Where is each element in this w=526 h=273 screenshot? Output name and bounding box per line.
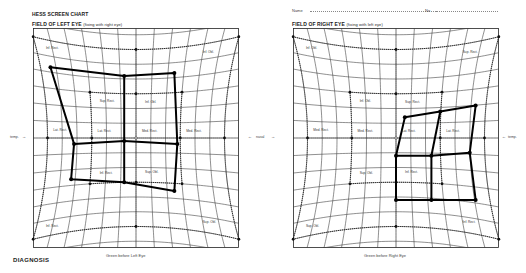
left-field-title-text: FIELD OF LEFT EYE <box>32 21 82 27</box>
right-field-subtitle: (fixing with left eye) <box>346 22 382 27</box>
left-chart-footer: Green before Left Eye <box>106 254 145 258</box>
number-field[interactable] <box>436 8 498 12</box>
muscle-label-inner-bot-right: Sup. Obl. <box>145 170 158 174</box>
right-chart-temporal-arrow: ← <box>502 135 506 139</box>
muscle-label-inner-mid-left: Lat. Rect. <box>98 129 112 133</box>
muscle-label-inner-top-left: Sup. Rect. <box>100 99 115 103</box>
muscle-label-inner-bot-left: Inf. Rect. <box>100 171 113 175</box>
muscle-label-inner-mid-left: Med. Rect. <box>358 129 374 133</box>
diagnosis-heading: DIAGNOSIS <box>13 257 49 263</box>
muscle-label-outer-bot-left: Sup. Obl. <box>306 224 319 228</box>
left-field-title: FIELD OF LEFT EYE (fixing with right eye… <box>32 22 122 27</box>
muscle-label-outer-top-right: Inf. Obl. <box>203 50 214 54</box>
left-chart-temporal-arrow: → <box>22 135 26 139</box>
name-field-label: Name <box>292 9 303 13</box>
name-field[interactable] <box>310 8 438 12</box>
muscle-label-outer-mid-right: Med. Rect. <box>186 129 202 133</box>
muscle-label-inner-top-left: Inf. Obl. <box>360 99 371 103</box>
muscle-label-outer-mid-left: Lat. Rect. <box>53 128 67 132</box>
muscle-label-outer-mid-right: Lat. Rect. <box>446 129 460 133</box>
left-eye-chart: Inf. Rect.Inf. Obl.Sup. Rect.Inf. Obl.La… <box>33 28 239 248</box>
right-chart-footer: Green before Right Eye <box>364 254 406 258</box>
muscle-label-outer-top-right: Sup. Rect. <box>463 50 478 54</box>
number-field-label: No <box>425 9 430 13</box>
right-eye-chart: Inf. Obl.Sup. Rect.Inf. Obl.Sup. Rect.Me… <box>293 28 499 248</box>
muscle-label-inner-bot-left: Sup. Obl. <box>360 171 373 175</box>
right-chart-temporal-label: temp. <box>508 136 517 140</box>
right-chart-nasal-arrow: → <box>271 135 275 139</box>
left-field-subtitle: (fixing with right eye) <box>83 22 122 27</box>
muscle-label-outer-bot-right: Inf. Rect. <box>463 220 476 224</box>
right-field-title: FIELD OF RIGHT EYE (fixing with left eye… <box>292 22 383 27</box>
muscle-label-inner-top-right: Inf. Obl. <box>145 100 156 104</box>
muscle-label-outer-top-left: Inf. Obl. <box>306 46 317 50</box>
muscle-label-outer-bot-right: Sup. Obl. <box>203 220 216 224</box>
muscle-label-outer-bot-left: Inf. Rect. <box>46 224 59 228</box>
left-chart-temporal-label: temp. <box>10 136 19 140</box>
muscle-label-inner-mid-right: Med. Rect. <box>142 129 158 133</box>
muscle-label-outer-top-left: Inf. Rect. <box>46 46 59 50</box>
muscle-label-inner-mid-right: Lat. Rect. <box>402 129 416 133</box>
muscle-label-outer-mid-left: Med. Rect. <box>313 128 329 132</box>
center-nasal-label: nasal <box>256 136 264 140</box>
right-field-title-text: FIELD OF RIGHT EYE <box>292 21 345 27</box>
muscle-label-inner-bot-right: Inf. Rect. <box>405 170 418 174</box>
chart-title: HESS SCREEN CHART <box>32 12 88 17</box>
left-chart-nasal-arrow: ← <box>248 135 252 139</box>
muscle-label-inner-top-right: Sup. Rect. <box>405 100 420 104</box>
